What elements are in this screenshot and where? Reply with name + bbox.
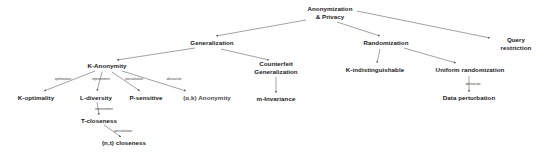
edge-label-kanon-to-koptimal: optimization (55, 77, 72, 81)
edge-kanon-to-akanon (122, 71, 186, 91)
node-root: Anonymization & Privacy (308, 5, 353, 20)
node-kanon: K-Anonymity (87, 62, 126, 70)
node-random: Randomization (364, 39, 409, 47)
node-tclose: T-closeness (81, 117, 117, 125)
node-minvar: m-Invariance (257, 95, 296, 103)
edge-root-to-general (216, 20, 306, 36)
node-query: Query restriction (496, 36, 537, 51)
edge-general-to-kanon (117, 48, 195, 60)
edge-label-kanon-to-psens: specialization (125, 77, 144, 81)
edge-random-to-unirandom (404, 48, 456, 63)
node-kindist: K-indistinguishable (346, 66, 404, 74)
node-akanon: (α,k) Anonymity (183, 94, 231, 102)
edge-kanon-to-koptimal (44, 71, 95, 91)
edge-root-to-query (357, 11, 490, 38)
edge-general-to-counterfeit (221, 49, 269, 60)
node-psens: P-sensitive (129, 94, 162, 102)
edge-random-to-kindist (377, 49, 380, 63)
edge-layer (0, 0, 557, 154)
edge-label-kanon-to-akanon: abstraction (166, 77, 181, 81)
node-ldiv: L-diversity (80, 94, 112, 102)
node-koptimal: K-optimality (18, 94, 54, 102)
edge-label-kanon-to-ldiv: improvement (92, 77, 110, 81)
node-counterfeit: Counterfeit Generalization (254, 60, 297, 75)
node-general: Generalization (190, 39, 233, 47)
edge-label-ldiv-to-tclose: improvement (95, 107, 113, 111)
taxonomy-diagram: optimizationimprovementspecializationabs… (0, 0, 557, 154)
edge-label-tclose-to-ntclose: specialization (114, 129, 133, 133)
edge-label-unirandom-to-dataperturb: abstraction (465, 82, 480, 86)
edge-kanon-to-psens (112, 72, 140, 91)
node-dataperturb: Data perturbation (443, 94, 495, 102)
edge-kanon-to-ldiv (97, 72, 102, 91)
node-ntclose: (n,t) closeness (102, 139, 146, 147)
node-unirandom: Uniform randomization (436, 66, 505, 74)
edge-root-to-random (337, 22, 380, 36)
